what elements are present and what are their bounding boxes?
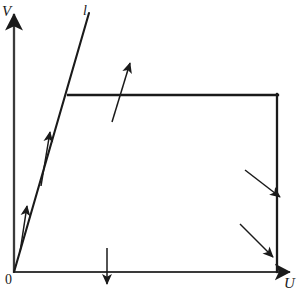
arrow-diagonal-upper	[41, 132, 50, 186]
arrow-right-line-upper	[245, 170, 280, 197]
arrow-top-line-crossing	[112, 63, 130, 122]
diagonal-line	[14, 13, 89, 272]
figure-drawing	[0, 0, 302, 295]
v-axis-label: V	[2, 4, 11, 19]
diagonal-line-label: l	[83, 4, 87, 18]
u-axis-label: U	[284, 276, 295, 291]
origin-label: 0	[5, 273, 12, 287]
figure-container: V U 0 l	[0, 0, 302, 295]
arrow-right-line-lower	[240, 224, 273, 257]
